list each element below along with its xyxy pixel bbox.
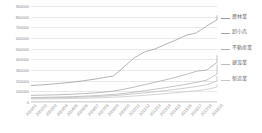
- legend-label: 卸小売: [232, 29, 260, 35]
- x-axis-line: [31, 101, 217, 102]
- legend-line-swatch: [221, 33, 230, 34]
- y-axis-tick-label: 300000: [16, 68, 29, 73]
- x-axis: 2000/012001/022002/032003/042004/052005/…: [31, 103, 217, 133]
- legend-item[interactable]: 卸小売: [221, 29, 262, 38]
- series-layer: [31, 6, 217, 102]
- y-axis-tick-label: 600000: [16, 36, 29, 41]
- legend-item[interactable]: 農林業: [221, 14, 262, 23]
- legend-item[interactable]: 建設業: [221, 60, 262, 69]
- y-axis-tick-label: 700000: [16, 25, 29, 30]
- chart-legend: 農林業卸小売不動産業建設業製造業: [221, 14, 262, 91]
- y-axis-tick-label: 500000: [16, 46, 29, 51]
- series-line: [31, 65, 217, 98]
- legend-line-swatch: [221, 49, 230, 50]
- y-axis-tick-label: 400000: [16, 57, 29, 62]
- legend-line-swatch: [221, 64, 230, 65]
- y-axis-tick-label: 100000: [16, 89, 29, 94]
- y-axis-tick-label: 800000: [16, 14, 29, 19]
- y-axis-tick-label: 200000: [16, 78, 29, 83]
- y-axis-tick-label: 900000: [16, 4, 29, 9]
- legend-line-swatch: [221, 80, 230, 81]
- series-line: [31, 55, 217, 95]
- legend-label: 不動産業: [232, 45, 260, 51]
- legend-label: 製造業: [232, 76, 260, 82]
- legend-line-swatch: [221, 18, 230, 19]
- plot-area: [31, 6, 217, 102]
- legend-label: 農林業: [232, 14, 260, 20]
- series-line: [31, 15, 217, 85]
- legend-item[interactable]: 製造業: [221, 76, 262, 85]
- legend-label: 建設業: [232, 60, 260, 66]
- legend-item[interactable]: 不動産業: [221, 45, 262, 54]
- y-axis: 9000008000007000006000005000004000003000…: [0, 0, 31, 108]
- y-axis-tick-label: 0: [27, 100, 29, 105]
- line-chart: 9000008000007000006000005000004000003000…: [0, 0, 262, 133]
